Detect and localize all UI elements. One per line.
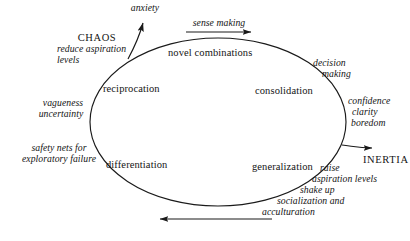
annotation-uncertainty: uncertainty xyxy=(20,109,102,120)
inertia-arrow xyxy=(342,145,372,148)
pole-label-chaos: CHAOS xyxy=(70,32,124,44)
annotation-sense-making: sense making xyxy=(182,18,256,29)
pole-label-inertia: INERTIA xyxy=(363,154,409,166)
stage-label-novel-combinations: novel combinations xyxy=(168,47,252,59)
diagram-canvas: anxiety sense making CHAOS reduce aspira… xyxy=(0,0,410,241)
stage-label-generalization: generalization xyxy=(252,161,313,173)
annotation-decision-making-line2: making xyxy=(322,69,351,80)
annotation-boredom: boredom xyxy=(351,118,385,129)
stage-label-differentiation: differentiation xyxy=(106,159,167,171)
stage-label-reciprocation: reciprocation xyxy=(103,83,160,95)
annotation-anxiety: anxiety xyxy=(117,3,173,14)
annotation-acculturation: acculturation xyxy=(262,207,315,218)
cycle-diagram-svg xyxy=(0,0,410,241)
annotation-safety-nets-line2: exploratory failure xyxy=(8,154,110,165)
stage-label-consolidation: consolidation xyxy=(255,85,313,97)
annotation-reduce-aspiration-line2: levels xyxy=(57,55,141,66)
